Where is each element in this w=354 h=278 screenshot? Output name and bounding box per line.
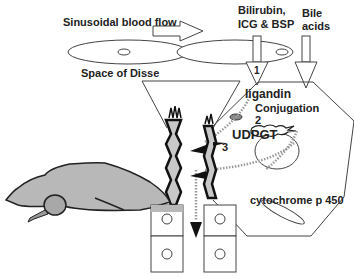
- label-step3: 3: [222, 142, 228, 153]
- label-cytochrome: cytochrome p 450: [250, 195, 344, 206]
- label-step2: 2: [255, 115, 261, 126]
- label-conjugation: Conjugation: [255, 103, 319, 114]
- label-bilirubin-line1: Bilirubin,: [238, 5, 286, 16]
- label-step1: 1: [254, 66, 260, 76]
- space-of-disse-funnel: [142, 81, 240, 130]
- diagram-graphics: [0, 0, 354, 278]
- label-bilirubin-line2: ICG & BSP: [238, 19, 294, 30]
- hepatic-transport-diagram: Sinusoidal blood flow Bilirubin, ICG & B…: [0, 0, 354, 278]
- uptake-arrow-icon: [246, 36, 317, 88]
- label-bile-line1: Bile: [302, 8, 322, 19]
- label-bile-line2: acids: [302, 21, 330, 32]
- label-udpgt: UDPGT: [232, 128, 278, 141]
- canaliculus-left: [166, 106, 181, 205]
- label-sinusoidal-blood-flow: Sinusoidal blood flow: [63, 17, 177, 28]
- cell-column-left: [151, 205, 183, 272]
- excretion-arrow-icon: [190, 222, 202, 238]
- gallbladder-icon: [6, 163, 170, 222]
- cell-column-right: [204, 205, 236, 272]
- label-space-of-disse: Space of Disse: [81, 68, 159, 79]
- label-ligandin: ligandin: [245, 88, 291, 100]
